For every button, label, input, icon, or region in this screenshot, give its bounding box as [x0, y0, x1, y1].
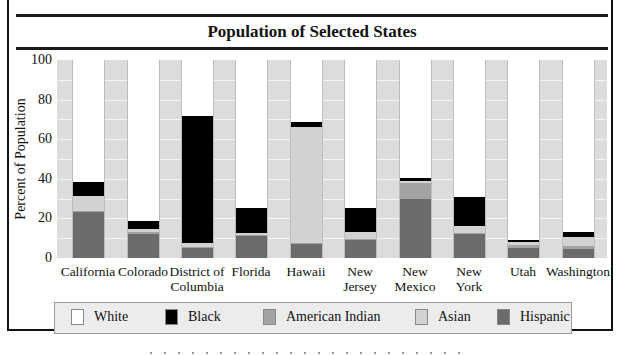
segment-hispanic	[182, 248, 213, 258]
clipped-caption	[150, 350, 470, 355]
bar-utah	[507, 60, 540, 258]
legend-item-asian: Asian	[415, 309, 471, 325]
segment-black	[454, 197, 485, 227]
y-tick-label: 60	[22, 132, 52, 146]
segment-white	[236, 60, 267, 208]
y-tick-label: 40	[22, 172, 52, 186]
y-tick-label: 0	[22, 251, 52, 265]
segment-black	[236, 208, 267, 234]
segment-asian	[454, 226, 485, 233]
x-tick-label-line: York	[429, 279, 509, 294]
segment-black	[128, 221, 159, 229]
legend-label: Hispanic	[520, 309, 570, 325]
legend-label: Asian	[438, 309, 471, 325]
segment-asian	[563, 237, 594, 246]
bar-new-jersey	[344, 60, 377, 258]
segment-hispanic	[345, 240, 376, 258]
segment-asian	[345, 232, 376, 239]
legend-label: Black	[188, 309, 221, 325]
segment-white	[563, 60, 594, 232]
bar-new-mexico	[399, 60, 432, 258]
segment-white	[345, 60, 376, 208]
x-tick-label-line: Columbia	[157, 279, 237, 294]
segment-white	[182, 60, 213, 116]
legend-swatch	[497, 309, 510, 325]
segment-white	[73, 60, 104, 182]
segment-black	[182, 116, 213, 243]
bar-california	[72, 60, 105, 258]
bar-hawaii	[290, 60, 323, 258]
bar-new-york	[453, 60, 486, 258]
y-tick-label: 80	[22, 93, 52, 107]
segment-hispanic	[400, 199, 431, 258]
legend-swatch	[165, 309, 178, 325]
title-rule-bottom	[16, 47, 608, 50]
title-rule-top	[16, 14, 608, 17]
bar-colorado	[127, 60, 160, 258]
segment-american-indian	[400, 183, 431, 199]
bar-district-of-columbia	[181, 60, 214, 258]
y-axis-label: Percent of Population	[12, 59, 30, 259]
segment-hispanic	[454, 234, 485, 258]
legend-item-american-indian: American Indian	[263, 309, 380, 325]
segment-hispanic	[291, 244, 322, 258]
legend-item-white: White	[71, 309, 128, 325]
bar-florida	[235, 60, 268, 258]
segment-white	[400, 60, 431, 178]
segment-white	[454, 60, 485, 197]
legend-item-black: Black	[165, 309, 221, 325]
legend-label: White	[94, 309, 128, 325]
segment-white	[291, 60, 322, 122]
segment-hispanic	[128, 234, 159, 258]
segment-white	[128, 60, 159, 221]
segment-hispanic	[563, 249, 594, 258]
x-tick-label: Washington	[538, 264, 618, 279]
legend-swatch	[415, 309, 428, 325]
segment-hispanic	[508, 248, 539, 258]
bar-washington	[562, 60, 595, 258]
legend-swatch	[71, 309, 84, 325]
segment-asian	[291, 127, 322, 243]
y-tick-label: 100	[22, 53, 52, 67]
segment-asian	[73, 196, 104, 212]
segment-hispanic	[236, 236, 267, 258]
chart-title: Population of Selected States	[16, 20, 608, 44]
segment-white	[508, 60, 539, 240]
x-tick-label-line: Washington	[538, 264, 618, 279]
segment-hispanic	[73, 212, 104, 258]
segment-black	[73, 182, 104, 196]
segment-black	[345, 208, 376, 233]
y-tick-label: 20	[22, 211, 52, 225]
legend-label: American Indian	[286, 309, 380, 325]
legend: WhiteBlackAmerican IndianAsianHispanic	[54, 302, 572, 334]
plot-area	[57, 60, 607, 258]
legend-swatch	[263, 309, 276, 325]
legend-item-hispanic: Hispanic	[497, 309, 570, 325]
